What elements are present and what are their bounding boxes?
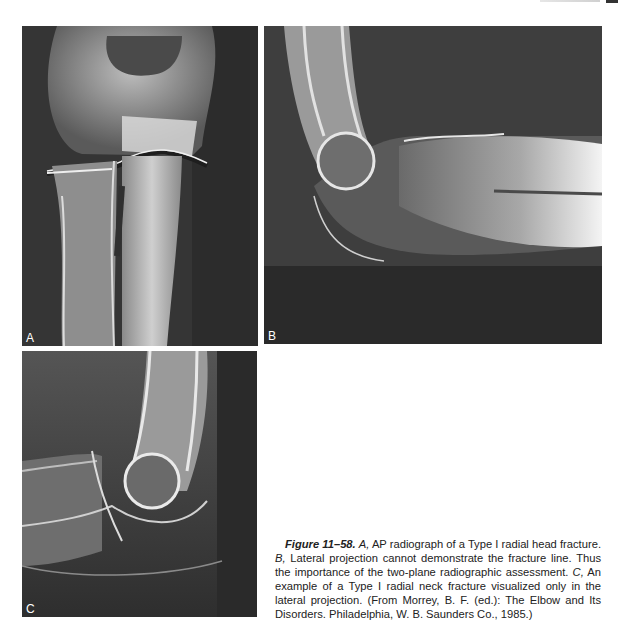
running-header-fragment [540,0,621,3]
figure-caption: Figure 11–58. A, AP radiograph of a Type… [275,537,601,621]
caption-part-b-text: Lateral projection cannot demonstrate th… [275,552,601,578]
caption-part-a-text: AP radiograph of a Type I radial head fr… [369,538,601,550]
caption-part-b-letter: B, [275,552,286,564]
xray-radial-neck-fracture-image [22,351,257,617]
xray-lateral-elbow-image [264,26,602,344]
panel-label-a: A [26,332,34,344]
radiograph-panel-a: A [22,26,258,346]
radiograph-panel-b: B [264,26,602,344]
running-header-text-clipped [540,0,600,2]
page-number-clipped [606,0,618,3]
panel-label-b: B [268,330,276,342]
xray-ap-elbow-image [22,26,258,346]
figure-label: Figure 11–58. [285,538,356,550]
caption-paragraph: Figure 11–58. A, AP radiograph of a Type… [275,537,601,621]
caption-part-a-letter: A, [359,538,370,550]
radiograph-panel-c: C [22,351,257,617]
panel-label-c: C [26,603,35,615]
caption-part-c-letter: C, [573,566,584,578]
